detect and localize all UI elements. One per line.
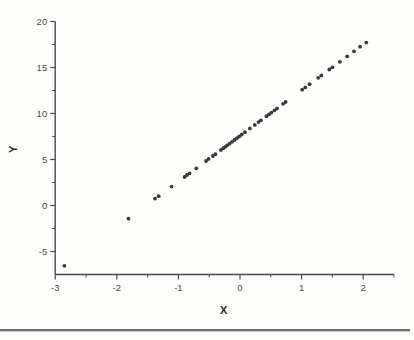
y-tick-label: 5 bbox=[42, 154, 47, 165]
scatter-plot: 20151050-5 -3-2-1012 X Y bbox=[0, 0, 414, 340]
y-tick-label: 10 bbox=[37, 108, 48, 119]
scatter-point bbox=[259, 118, 263, 122]
y-tick-label: 20 bbox=[37, 16, 48, 27]
y-tick-label: 15 bbox=[37, 62, 48, 73]
scatter-point bbox=[194, 166, 198, 170]
y-tick-label: -5 bbox=[39, 246, 47, 257]
x-tick-label: 2 bbox=[361, 282, 366, 293]
scatter-point bbox=[327, 68, 331, 72]
scatter-point bbox=[207, 157, 211, 161]
scatter-point bbox=[214, 152, 218, 156]
scatter-point bbox=[253, 123, 257, 127]
data-points bbox=[63, 41, 369, 268]
scatter-point bbox=[331, 65, 335, 69]
scatter-point bbox=[275, 107, 279, 111]
x-tick-label: -1 bbox=[174, 282, 182, 293]
y-axis-title: Y bbox=[7, 145, 19, 153]
scatter-point bbox=[243, 130, 247, 134]
scatter-point bbox=[364, 41, 368, 45]
x-tick-label: 0 bbox=[237, 282, 242, 293]
x-tick-label: -3 bbox=[51, 282, 59, 293]
scatter-point bbox=[153, 197, 157, 201]
y-axis: 20151050-5 bbox=[37, 16, 56, 275]
scatter-point bbox=[338, 60, 342, 64]
y-tick-label: 0 bbox=[42, 200, 47, 211]
scatter-point bbox=[308, 82, 312, 86]
scatter-point bbox=[358, 45, 362, 49]
scatter-point bbox=[316, 76, 320, 80]
scatter-point bbox=[240, 133, 244, 137]
scatter-point bbox=[170, 185, 174, 189]
x-axis: -3-2-1012 bbox=[51, 275, 394, 293]
scatter-point bbox=[188, 172, 192, 176]
page-divider-rule bbox=[0, 329, 410, 332]
scatter-point bbox=[284, 100, 288, 104]
scatter-point bbox=[157, 194, 161, 198]
scatter-point bbox=[248, 127, 252, 131]
scatter-point bbox=[300, 88, 304, 92]
scatter-point bbox=[345, 54, 349, 58]
x-tick-label: -2 bbox=[113, 282, 121, 293]
scatter-point bbox=[319, 74, 323, 78]
x-axis-title: X bbox=[220, 304, 228, 316]
scatter-point bbox=[303, 86, 307, 90]
scatter-point bbox=[63, 264, 67, 268]
figure-page: 20151050-5 -3-2-1012 X Y bbox=[0, 0, 414, 340]
scatter-point bbox=[270, 111, 274, 115]
scatter-point bbox=[127, 217, 131, 221]
x-tick-label: 1 bbox=[299, 282, 304, 293]
scatter-point bbox=[352, 49, 356, 53]
